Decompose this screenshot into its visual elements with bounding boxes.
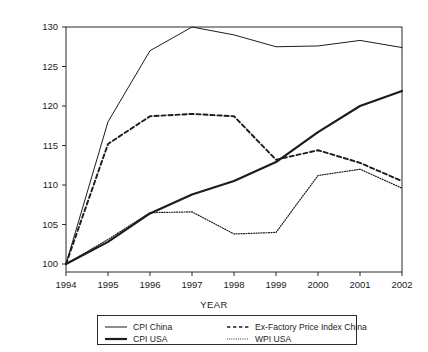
- y-tick-label: 110: [22, 179, 58, 190]
- x-axis-title: YEAR: [0, 299, 428, 310]
- x-tick-label: 1996: [130, 279, 170, 290]
- legend-key-dashed: [226, 322, 250, 332]
- legend-column-left: CPI China CPI USA: [104, 316, 224, 346]
- y-tick-label: 115: [22, 140, 58, 151]
- x-tick-label: 1995: [88, 279, 128, 290]
- legend-item-wpi-usa[interactable]: WPI USA: [226, 331, 291, 346]
- chart-legend: CPI China CPI USA Ex-Factory Price Index…: [97, 315, 357, 345]
- legend-key-dotted: [226, 334, 250, 344]
- legend-label-ex-factory-price-index-china: Ex-Factory Price Index China: [255, 322, 367, 332]
- x-tick-label: 1997: [172, 279, 212, 290]
- legend-key-thick-solid: [104, 334, 128, 344]
- legend-label-wpi-usa: WPI USA: [255, 334, 291, 344]
- x-tick-label: 1994: [46, 279, 86, 290]
- x-axis-ticks: [66, 272, 402, 276]
- y-tick-label: 105: [22, 219, 58, 230]
- x-tick-label: 2000: [298, 279, 338, 290]
- y-tick-label: 125: [22, 61, 58, 72]
- y-tick-label: 130: [22, 21, 58, 32]
- x-tick-label: 2001: [340, 279, 380, 290]
- x-tick-label: 1998: [214, 279, 254, 290]
- legend-label-cpi-usa: CPI USA: [133, 334, 167, 344]
- x-tick-label: 1999: [256, 279, 296, 290]
- x-tick-label: 2002: [382, 279, 422, 290]
- legend-label-cpi-china: CPI China: [133, 322, 172, 332]
- y-axis-ticks: [62, 27, 66, 264]
- legend-column-right: Ex-Factory Price Index China WPI USA: [226, 316, 356, 346]
- chart-figure: 100105110115120125130 199419951996199719…: [0, 0, 428, 352]
- legend-key-thin-solid: [104, 322, 128, 332]
- y-tick-label: 120: [22, 100, 58, 111]
- legend-item-cpi-usa[interactable]: CPI USA: [104, 331, 167, 346]
- y-tick-label: 100: [22, 258, 58, 269]
